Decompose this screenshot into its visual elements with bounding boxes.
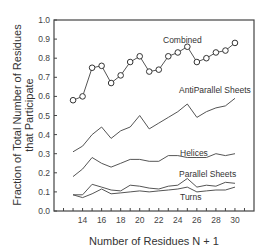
x-tick-label: 22 [154,215,164,225]
data-point-marker [146,69,152,75]
y-tick-label: 0.9 [38,34,50,44]
y-tick-label: 1.0 [38,15,50,25]
y-tick-label: 0.6 [38,91,50,101]
x-tick-label: 26 [192,215,202,225]
x-tick-label: 16 [97,215,107,225]
x-tick-label: 18 [116,215,126,225]
y-tick-label: 0.7 [38,72,50,82]
series-label-parallel-sheets: Parallel Sheets [179,169,236,179]
series-label-antiparallel-sheets: AntiParallel Sheets [179,85,251,95]
data-point-marker [108,80,114,86]
y-axis-title-line-1: Fraction of Total Number of Residues [11,24,23,206]
x-tick-label: 30 [230,215,240,225]
data-point-marker [127,59,133,65]
data-point-marker [99,63,105,69]
series-antiparallel-sheets [73,98,235,152]
data-point-marker [232,40,238,46]
data-point-marker [89,65,95,71]
data-point-marker [175,50,181,56]
series-label-turns: Turns [180,192,201,202]
x-axis-title: Number of Residues N + 1 [89,235,219,247]
y-tick-label: 0.2 [38,168,50,178]
y-tick-label: 0.1 [38,187,50,197]
series-label-helices: Helices [180,148,208,158]
data-point-marker [137,53,143,59]
series-line-antiparallel-sheets [73,98,235,152]
line-chart: Fraction of Total Number of Residues tha… [0,0,267,251]
data-point-marker [194,59,200,65]
y-tick-label: 0.3 [38,149,50,159]
x-tick-label: 28 [211,215,221,225]
data-point-marker [156,67,162,73]
data-point-marker [70,97,76,103]
data-point-marker [165,53,171,59]
data-point-marker [80,94,86,100]
y-tick-label: 0.0 [38,206,50,216]
data-point-marker [223,48,229,54]
series-label-combined: Combined [163,35,202,45]
data-point-marker [204,55,210,61]
data-point-marker [118,73,124,79]
x-tick-label: 24 [173,215,183,225]
y-tick-label: 0.5 [38,111,50,121]
y-tick-label: 0.4 [38,130,50,140]
x-tick-label: 20 [135,215,145,225]
series-line-parallel-sheets [73,179,235,195]
data-point-marker [213,50,219,56]
y-tick-label: 0.8 [38,53,50,63]
y-axis-title: Fraction of Total Number of Residues tha… [11,24,35,206]
series-parallel-sheets [73,179,235,195]
y-axis-title-line-2: that Participate [23,78,35,151]
x-tick-label: 14 [78,215,88,225]
